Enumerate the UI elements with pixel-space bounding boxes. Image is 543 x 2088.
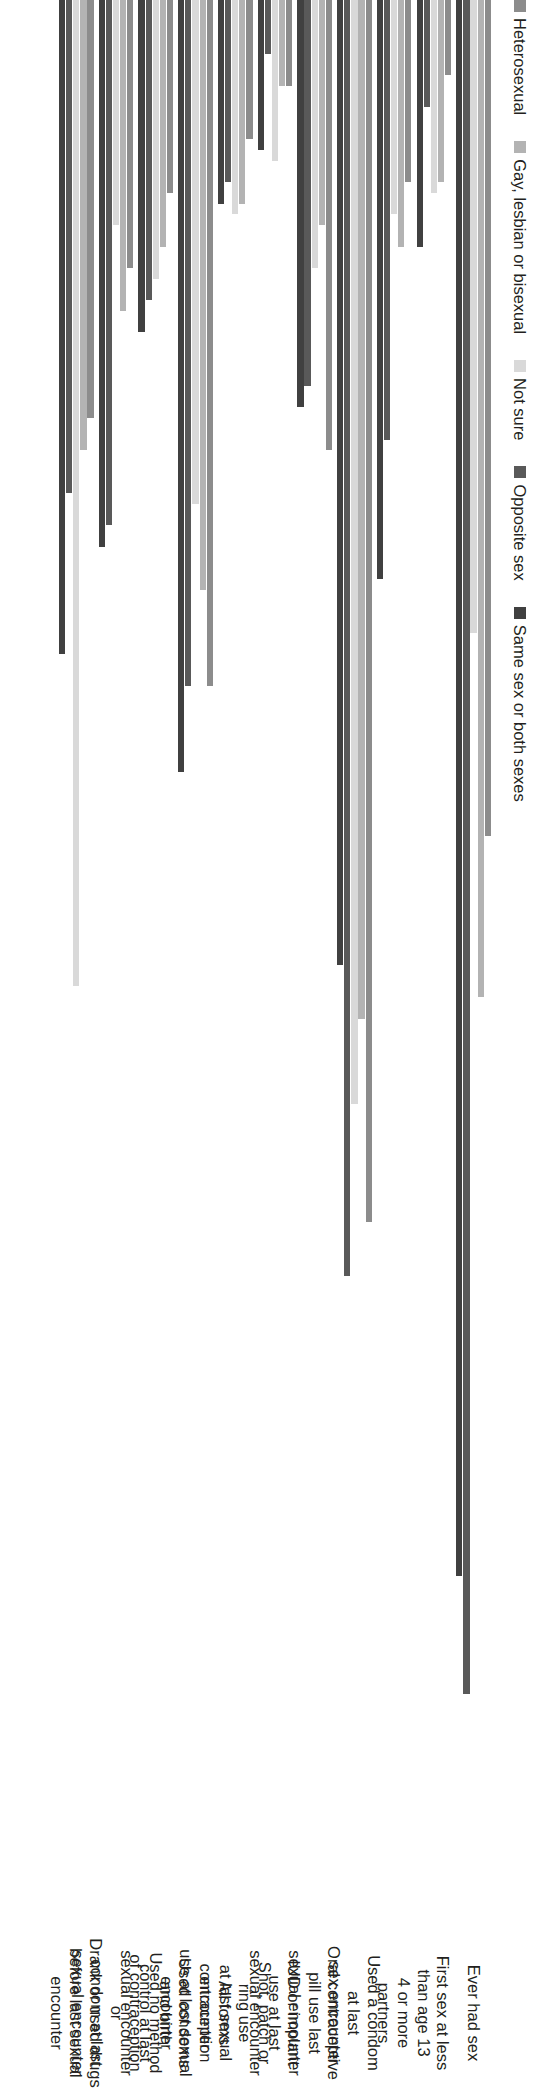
legend-item[interactable]: Same sex or both sexes <box>511 607 530 802</box>
bar[interactable] <box>377 0 383 579</box>
bar[interactable] <box>351 0 357 1104</box>
legend-item[interactable]: Gay, lesbian or bisexual <box>511 141 530 334</box>
bar[interactable] <box>73 0 79 986</box>
legend-swatch-icon <box>514 466 526 478</box>
bar[interactable] <box>146 0 152 300</box>
bar[interactable] <box>138 0 144 332</box>
category-label: Drank or used drugs before last sexual e… <box>47 1938 105 2088</box>
bar[interactable] <box>225 0 231 182</box>
bar[interactable] <box>344 0 350 1276</box>
bar[interactable] <box>398 0 404 247</box>
bar[interactable] <box>258 0 264 150</box>
bar[interactable] <box>232 0 238 214</box>
bar[interactable] <box>478 0 484 997</box>
bar[interactable] <box>438 0 444 182</box>
legend-swatch-icon <box>514 360 526 372</box>
legend-swatch-icon <box>514 141 526 153</box>
bar[interactable] <box>200 0 206 590</box>
bar[interactable] <box>279 0 285 86</box>
bar[interactable] <box>59 0 65 654</box>
bar[interactable] <box>297 0 303 407</box>
bar[interactable] <box>424 0 430 107</box>
bar[interactable] <box>178 0 184 772</box>
bar[interactable] <box>319 0 325 225</box>
bar[interactable] <box>391 0 397 214</box>
bar[interactable] <box>305 0 311 386</box>
bar[interactable] <box>99 0 105 547</box>
bar[interactable] <box>87 0 93 418</box>
bar[interactable] <box>80 0 86 450</box>
legend-swatch-icon <box>514 607 526 619</box>
bar[interactable] <box>120 0 126 311</box>
bar[interactable] <box>265 0 271 54</box>
legend-item[interactable]: Opposite sex <box>511 466 530 580</box>
plot-area: 0102030405060708090 Ever had sexFirst se… <box>58 0 495 1930</box>
legend-label: Same sex or both sexes <box>511 625 530 802</box>
bar[interactable] <box>405 0 411 182</box>
bar[interactable] <box>218 0 224 204</box>
bar[interactable] <box>286 0 292 86</box>
bar[interactable] <box>272 0 278 161</box>
bar[interactable] <box>106 0 112 525</box>
bar[interactable] <box>312 0 318 268</box>
bar[interactable] <box>456 0 462 1576</box>
legend-label: Heterosexual <box>511 18 530 115</box>
legend-item[interactable]: Not sure <box>511 360 530 440</box>
bar[interactable] <box>153 0 159 279</box>
bar[interactable] <box>445 0 451 75</box>
bar[interactable] <box>207 0 213 686</box>
bar[interactable] <box>366 0 372 1222</box>
bar[interactable] <box>113 0 119 225</box>
bar[interactable] <box>358 0 364 1019</box>
bar[interactable] <box>463 0 469 1694</box>
bar[interactable] <box>185 0 191 686</box>
bar[interactable] <box>337 0 343 965</box>
bar[interactable] <box>127 0 133 268</box>
bar[interactable] <box>384 0 390 440</box>
bar[interactable] <box>66 0 72 493</box>
bar[interactable] <box>167 0 173 193</box>
bar[interactable] <box>431 0 437 193</box>
legend-label: Opposite sex <box>511 484 530 580</box>
bar[interactable] <box>192 0 198 504</box>
category-label: First sex at less than age 13 <box>414 1938 453 2088</box>
bar[interactable] <box>417 0 423 247</box>
bar[interactable] <box>160 0 166 247</box>
bar[interactable] <box>239 0 245 204</box>
bar[interactable] <box>485 0 491 836</box>
legend-swatch-icon <box>514 0 526 12</box>
legend-label: Not sure <box>511 378 530 440</box>
legend-label: Gay, lesbian or bisexual <box>511 159 530 334</box>
bar[interactable] <box>246 0 252 139</box>
chart-legend: HeterosexualGay, lesbian or bisexualNot … <box>507 0 533 1000</box>
legend-item[interactable]: Heterosexual <box>511 0 530 115</box>
bar[interactable] <box>471 0 477 633</box>
category-label: Ever had sex <box>463 1938 482 2088</box>
bar[interactable] <box>326 0 332 450</box>
